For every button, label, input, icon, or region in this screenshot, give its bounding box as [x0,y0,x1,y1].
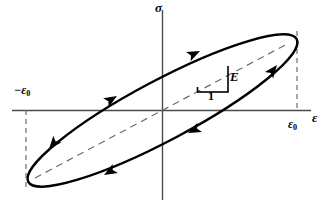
hysteresis-loop-svg [0,0,329,207]
epsilon-zero-negative-label: −ε0 [14,84,30,98]
modulus-label: E [230,70,239,83]
epsilon-zero-negative-symbol: −ε [14,83,26,97]
strain-axis-label: ε [312,111,317,124]
epsilon-zero-positive-subscript: 0 [293,123,297,132]
epsilon-zero-positive-label: ε0 [288,118,297,132]
hysteresis-loop-figure: σ ε ε0 −ε0 E 1 [0,0,329,207]
epsilon-zero-negative-subscript: 0 [26,89,30,98]
unit-run-label: 1 [208,90,214,102]
stress-axis-label: σ [155,1,162,14]
